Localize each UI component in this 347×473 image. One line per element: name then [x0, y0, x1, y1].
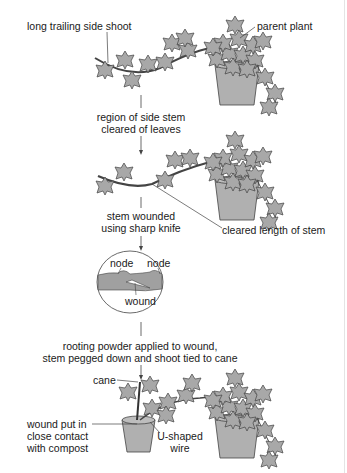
label-wound: wound: [125, 295, 156, 307]
label-wire-2: wire: [155, 442, 205, 454]
label-parent-plant: parent plant: [257, 20, 312, 32]
label-cleared-stem: cleared length of stem: [222, 224, 325, 236]
label-side-shoot: long trailing side shoot: [27, 20, 131, 32]
layering-diagram-art: [0, 0, 347, 473]
step1-line2: cleared of leaves: [91, 123, 191, 135]
stage3-plants: [92, 369, 284, 469]
step1-line1: region of side stem: [91, 111, 191, 123]
step3-line1: rooting powder applied to wound,: [20, 340, 260, 352]
label-cane: cane: [93, 374, 116, 386]
scrollbar-edge: [344, 0, 345, 473]
label-wound-put-1: wound put in: [27, 418, 87, 430]
label-node-right: node: [147, 257, 170, 269]
step2-line1: stem wounded: [91, 210, 191, 222]
step3-line2: stem pegged down and shoot tied to cane: [20, 352, 260, 364]
label-wire-1: U-shaped: [155, 430, 205, 442]
step2-line2: using sharp knife: [91, 222, 191, 234]
label-node-left: node: [110, 257, 133, 269]
label-wound-put-3: with compost: [27, 442, 88, 454]
label-wound-put-2: close contact: [27, 430, 88, 442]
